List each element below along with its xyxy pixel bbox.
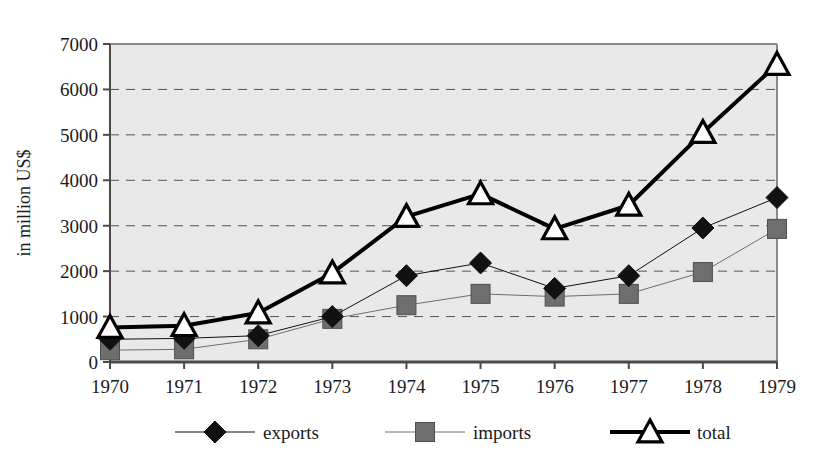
x-tick-label: 1974	[387, 376, 426, 397]
y-tick-label: 3000	[60, 216, 98, 237]
marker-diamond	[204, 421, 226, 443]
x-tick-label: 1976	[536, 376, 574, 397]
x-tick-label: 1978	[684, 376, 722, 397]
y-tick-labels: 01000200030004000500060007000	[60, 34, 98, 373]
y-tick-label: 1000	[60, 307, 98, 328]
x-tick-label: 1972	[239, 376, 277, 397]
y-tick-label: 7000	[60, 34, 98, 55]
x-tick-label: 1975	[462, 376, 500, 397]
trade-line-chart: 01000200030004000500060007000 1970197119…	[0, 0, 815, 466]
marker-square	[416, 423, 435, 442]
x-tick-label: 1970	[91, 376, 129, 397]
y-axis-title: in million US$	[14, 149, 34, 256]
legend-label: imports	[473, 422, 531, 443]
y-tick-label: 0	[89, 352, 99, 373]
legend-label: exports	[263, 422, 319, 443]
legend-item-imports: imports	[385, 422, 531, 443]
x-tick-label: 1977	[610, 376, 648, 397]
x-axis	[110, 362, 777, 369]
y-tick-label: 2000	[60, 261, 98, 282]
plot-background	[110, 44, 777, 362]
marker-square	[693, 263, 712, 282]
chart-legend: exportsimportstotal	[175, 420, 731, 443]
y-tick-label: 6000	[60, 79, 98, 100]
legend-item-total: total	[610, 420, 731, 443]
legend-item-exports: exports	[175, 421, 319, 443]
y-tick-label: 5000	[60, 125, 98, 146]
marker-square	[471, 284, 490, 303]
x-tick-label: 1979	[758, 376, 796, 397]
x-tick-label: 1973	[313, 376, 351, 397]
x-tick-label: 1971	[165, 376, 203, 397]
chart-container: 01000200030004000500060007000 1970197119…	[0, 0, 815, 466]
x-tick-labels: 1970197119721973197419751976197719781979	[91, 376, 796, 397]
marker-square	[397, 296, 416, 315]
y-tick-label: 4000	[60, 170, 98, 191]
marker-square	[768, 219, 787, 238]
legend-label: total	[697, 422, 731, 443]
